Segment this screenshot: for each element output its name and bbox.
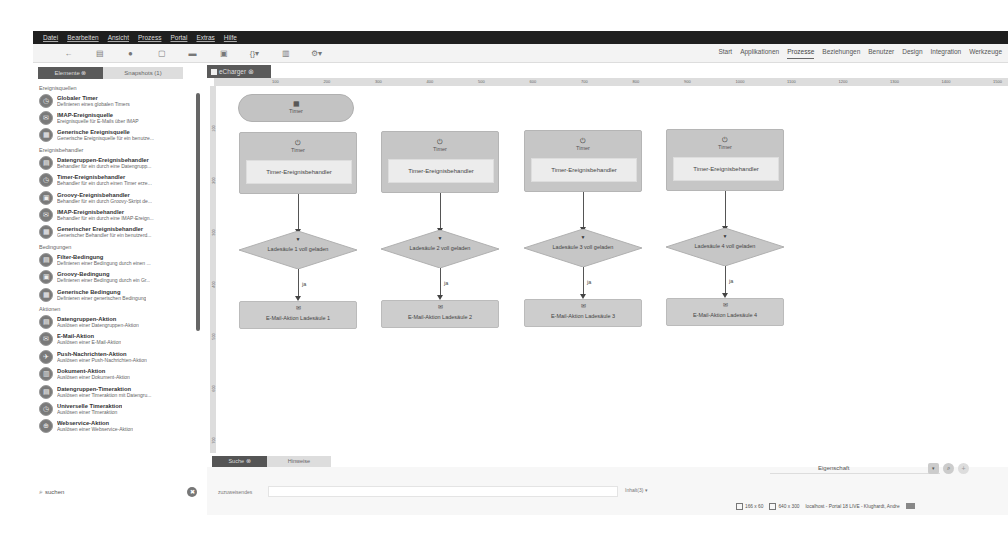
- search-icon: ⌕: [39, 488, 43, 496]
- nav-prozesse[interactable]: Prozesse: [787, 48, 814, 59]
- palette-item[interactable]: ✉IMAP-EreignisbehandlerBehandler für ein…: [37, 206, 200, 223]
- edge-label-yes: ja: [587, 279, 591, 285]
- export-icon[interactable]: ▤: [84, 47, 115, 60]
- event-handler-node[interactable]: ⏻TimerTimer-Ereignisbehandler: [524, 130, 642, 192]
- palette-item[interactable]: ✉E-Mail-AktionAuslösen einer E-Mail-Akti…: [37, 331, 200, 348]
- trash-icon[interactable]: ▥: [270, 47, 301, 60]
- palette-scrollbar[interactable]: [196, 93, 200, 331]
- palette-item[interactable]: ✈Push-Nachrichten-AktionAuslösen einer P…: [37, 348, 200, 365]
- palette-item[interactable]: ◷Globaler TimerDefinieren eines globalen…: [37, 92, 200, 109]
- palette-item[interactable]: ▤Datengruppen-EreignisbehandlerBehandler…: [37, 154, 200, 171]
- menu-ansicht[interactable]: Ansicht: [108, 34, 129, 41]
- nav-applikationen[interactable]: Applikationen: [740, 48, 779, 59]
- timer-icon: ◷: [39, 94, 53, 108]
- search-button[interactable]: ⌕: [943, 463, 954, 474]
- palette-item-desc: Auslösen einer Push-Nachrichten-Aktion: [57, 357, 147, 363]
- nav-design[interactable]: Design: [902, 48, 922, 59]
- start-node-timer[interactable]: ▦ Timer: [238, 94, 354, 122]
- tab-hints[interactable]: Hinweise: [267, 456, 331, 467]
- envelope-icon: ✉: [240, 305, 356, 312]
- palette-item[interactable]: ▤Datengruppen-AktionAuslösen einer Daten…: [37, 313, 200, 330]
- substitute-input[interactable]: [268, 486, 618, 497]
- clear-search-button[interactable]: ✖: [187, 487, 197, 497]
- folder-icon[interactable]: ▬: [177, 47, 208, 60]
- palette-item[interactable]: ▣Groovy-BedingungDefinieren einer Beding…: [37, 269, 200, 286]
- category-header: Bedingungen: [37, 241, 200, 251]
- condition-node[interactable]: ▼Ladesäule 2 voll geladen: [381, 230, 499, 268]
- tab-search[interactable]: Suche ⊗: [212, 456, 267, 467]
- palette-item[interactable]: ▤Filter-BedingungDefinieren einer Beding…: [37, 251, 200, 268]
- filter-condition-icon: ▤: [39, 253, 53, 267]
- ruler-tick: 500: [478, 79, 485, 84]
- dropdown-button[interactable]: ▾: [928, 463, 939, 474]
- save-icon[interactable]: ▣: [208, 47, 239, 60]
- condition-node[interactable]: ▼Ladesäule 4 voll geladen: [666, 228, 784, 266]
- palette-item[interactable]: ▥Dokument-AktionAuslösen einer Dokument-…: [37, 365, 200, 382]
- nav-start[interactable]: Start: [718, 48, 732, 59]
- document-action-icon: ▥: [39, 367, 53, 381]
- property-select[interactable]: [770, 461, 940, 474]
- condition-label: Ladesäule 4 voll geladen: [666, 243, 784, 249]
- braces-dropdown-icon[interactable]: {}▾: [239, 47, 270, 60]
- email-action-node[interactable]: ✉E-Mail-Aktion Ladesäule 2: [381, 300, 499, 328]
- back-icon[interactable]: ←: [53, 47, 84, 60]
- menu-hilfe[interactable]: Hilfe: [224, 34, 237, 41]
- menu-datei[interactable]: Datei: [43, 34, 58, 41]
- palette-item[interactable]: ◷Timer-EreignisbehandlerBehandler für ei…: [37, 172, 200, 189]
- element-palette: Ereignisquellen◷Globaler TimerDefinieren…: [37, 82, 200, 484]
- palette-item[interactable]: ✉IMAP-EreignisquelleEreignisquelle für E…: [37, 109, 200, 126]
- groovy-condition-icon: ▣: [39, 270, 53, 284]
- palette-item-text: E-Mail-AktionAuslösen einer E-Mail-Aktio…: [57, 333, 121, 345]
- connector-line: [440, 193, 441, 229]
- condition-label: Ladesäule 3 voll geladen: [524, 244, 642, 250]
- email-action-node[interactable]: ✉E-Mail-Aktion Ladesäule 4: [666, 298, 784, 326]
- tab-elements[interactable]: Elemente ⊗: [38, 67, 103, 79]
- email-action-node[interactable]: ✉E-Mail-Aktion Ladesäule 3: [524, 299, 642, 327]
- nav-beziehungen[interactable]: Beziehungen: [822, 48, 860, 59]
- power-icon: ⏻: [240, 139, 356, 147]
- palette-item-text: Generische EreignisquelleGenerische Erei…: [57, 129, 154, 141]
- nav-integration[interactable]: Integration: [931, 48, 962, 59]
- palette-item[interactable]: ▣Groovy-EreignisbehandlerBehandler für e…: [37, 189, 200, 206]
- canvas-size: 640 x 300: [769, 503, 799, 510]
- palette-search-input[interactable]: ⌕ suchen: [37, 484, 200, 500]
- menu-bearbeiten[interactable]: Bearbeiten: [67, 34, 98, 41]
- email-action-node[interactable]: ✉E-Mail-Aktion Ladesäule 1: [239, 301, 357, 329]
- new-file-icon[interactable]: ▢: [146, 47, 177, 60]
- condition-node[interactable]: ▼Ladesäule 1 voll geladen: [239, 231, 357, 269]
- timer-source-icon: ▦: [239, 99, 353, 108]
- datagroup-action-icon: ▤: [39, 315, 53, 329]
- palette-item[interactable]: ▦Generische EreignisquelleGenerische Ere…: [37, 127, 200, 144]
- condition-label: Ladesäule 2 voll geladen: [381, 245, 499, 251]
- menu-extras[interactable]: Extras: [196, 34, 214, 41]
- palette-item[interactable]: ▤Datengruppen-TimeraktionAuslösen einer …: [37, 383, 200, 400]
- menu-prozess[interactable]: Prozess: [138, 34, 161, 41]
- event-handler-node[interactable]: ⏻TimerTimer-Ereignisbehandler: [239, 132, 357, 194]
- event-handler-node[interactable]: ⏻TimerTimer-Ereignisbehandler: [666, 129, 784, 191]
- add-button[interactable]: +: [958, 463, 969, 474]
- palette-item-desc: Behandler für ein durch Groovy-Skript de…: [57, 198, 152, 204]
- nav-werkzeuge[interactable]: Werkzeuge: [969, 48, 1002, 59]
- link-select[interactable]: Inhalt(3) ▾: [625, 487, 648, 493]
- globe-icon[interactable]: ●: [115, 47, 146, 60]
- palette-item[interactable]: ▦Generischer EreignisbehandlerGenerische…: [37, 224, 200, 241]
- settings-dropdown-icon[interactable]: ⚙▾: [301, 47, 332, 60]
- condition-node[interactable]: ▼Ladesäule 3 voll geladen: [524, 229, 642, 267]
- generic-source-icon: ▦: [39, 128, 53, 142]
- event-handler-node[interactable]: ⏻TimerTimer-Ereignisbehandler: [381, 131, 499, 193]
- nav-benutzer[interactable]: Benutzer: [868, 48, 894, 59]
- palette-item[interactable]: ◷Universelle TimeraktionAuslösen einer T…: [37, 400, 200, 417]
- palette-item-text: Timer-EreignisbehandlerBehandler für ein…: [57, 174, 152, 186]
- ruler-tick: 700: [581, 79, 588, 84]
- action-label: E-Mail-Aktion Ladesäule 3: [525, 313, 641, 319]
- tab-snapshots[interactable]: Snapshots (1): [103, 67, 183, 79]
- statusbar: 166 x 60 640 x 300 localhost - Portal 18…: [700, 500, 1008, 512]
- groovy-handler-icon: ▣: [39, 191, 53, 205]
- ruler-tick: 400: [427, 79, 434, 84]
- ruler-tick: 1000: [736, 79, 745, 84]
- palette-item[interactable]: ⊕Webservice-AktionAuslösen einer Webserv…: [37, 418, 200, 435]
- editor-tab-echarger[interactable]: eCharger ⊗: [207, 65, 271, 78]
- menu-portal[interactable]: Portal: [170, 34, 187, 41]
- envelope-icon: ✉: [382, 304, 498, 311]
- palette-item[interactable]: ▦Generische BedingungDefinieren einer ge…: [37, 286, 200, 303]
